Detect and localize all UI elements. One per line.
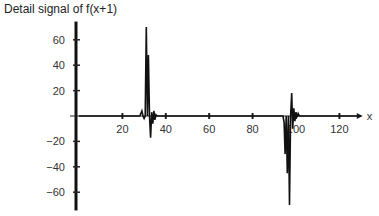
x-tick-label: 20 <box>116 123 128 135</box>
x-tick-label: 60 <box>203 123 215 135</box>
y-tick-label: −60 <box>46 186 65 198</box>
y-tick-label: −20 <box>46 135 65 147</box>
signal-line <box>79 27 361 205</box>
x-axis-label: x <box>367 110 373 122</box>
y-tick-label: 20 <box>53 85 65 97</box>
y-tick-label: −40 <box>46 161 65 173</box>
y-tick-label: 40 <box>53 59 65 71</box>
x-tick-label: 120 <box>330 123 348 135</box>
y-tick-label: 60 <box>53 34 65 46</box>
data-series <box>79 27 361 205</box>
x-tick-label: 40 <box>160 123 172 135</box>
x-tick-label: 80 <box>246 123 258 135</box>
plot-area: x20406080100120604020−20−40−60 <box>0 0 379 216</box>
x-tick-label: 100 <box>287 123 305 135</box>
